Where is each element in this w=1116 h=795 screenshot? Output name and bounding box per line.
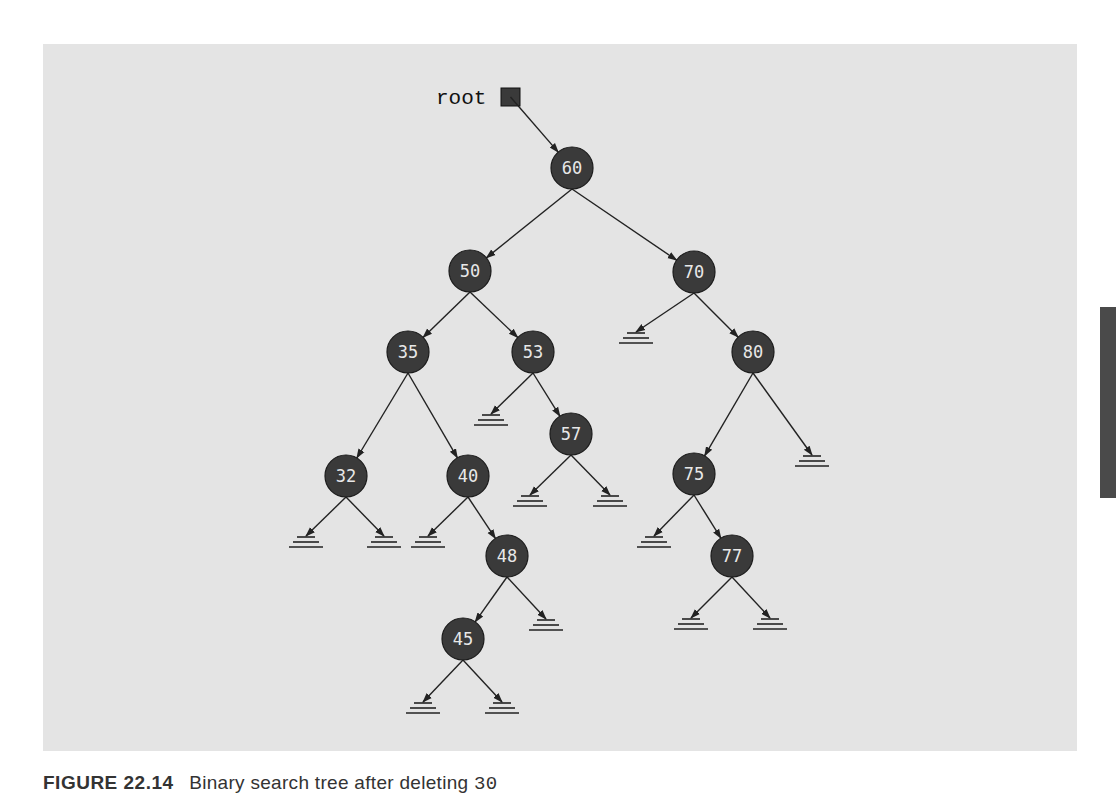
null-symbol-icon	[474, 415, 508, 425]
tree-node-40: 40	[447, 455, 489, 497]
figure-caption: FIGURE 22.14 Binary search tree after de…	[43, 772, 497, 795]
edge-60-70	[572, 189, 677, 260]
null-edge-48-right	[507, 577, 546, 619]
edge-75-77	[694, 495, 721, 538]
null-symbol-icon	[619, 333, 653, 343]
node-label: 77	[722, 546, 742, 566]
edge-35-40	[408, 373, 457, 458]
null-edge-75-left	[654, 495, 694, 536]
caption-text: Binary search tree after deleting	[189, 772, 468, 793]
null-edge-57-left	[530, 455, 571, 495]
null-edge-57-right	[571, 455, 610, 495]
null-symbol-icon	[367, 537, 401, 547]
null-edge-45-left	[423, 660, 463, 702]
null-symbol-icon	[289, 537, 323, 547]
null-symbol-icon	[529, 620, 563, 630]
edge-40-48	[468, 497, 495, 538]
node-label: 32	[336, 466, 356, 486]
tree-node-53: 53	[512, 331, 554, 373]
node-label: 75	[684, 464, 704, 484]
caption-value: 30	[474, 773, 497, 795]
edge-70-80	[694, 293, 738, 337]
edge-80-75	[705, 373, 753, 456]
null-edge-70-left	[636, 293, 694, 332]
node-label: 48	[497, 546, 517, 566]
null-edge-40-left	[428, 497, 468, 536]
node-label: 50	[460, 261, 480, 281]
node-label: 57	[561, 424, 581, 444]
tree-node-45: 45	[442, 618, 484, 660]
tree-node-77: 77	[711, 535, 753, 577]
tree-node-70: 70	[673, 251, 715, 293]
node-label: 80	[743, 342, 763, 362]
null-symbol-icon	[411, 537, 445, 547]
null-symbol-icon	[674, 619, 708, 629]
null-edge-32-right	[346, 497, 384, 536]
null-symbol-icon	[513, 496, 547, 506]
edge-35-32	[357, 373, 408, 458]
nodes-layer: 60507035538057324075487745	[325, 147, 774, 660]
edge-48-45	[475, 577, 507, 622]
null-symbol-icon	[637, 537, 671, 547]
node-label: 40	[458, 466, 478, 486]
tree-node-48: 48	[486, 535, 528, 577]
null-edge-77-left	[691, 577, 732, 618]
tree-node-32: 32	[325, 455, 367, 497]
null-symbol-icon	[406, 703, 440, 713]
edge-50-53	[470, 292, 518, 338]
tree-node-75: 75	[673, 453, 715, 495]
node-label: 45	[453, 629, 473, 649]
null-symbol-icon	[485, 703, 519, 713]
tree-node-35: 35	[387, 331, 429, 373]
edge-50-35	[423, 292, 470, 337]
null-edge-80-right	[753, 373, 812, 455]
null-edge-53-left	[491, 373, 533, 414]
node-label: 35	[398, 342, 418, 362]
node-label: 60	[562, 158, 582, 178]
null-edge-45-right	[463, 660, 502, 702]
edge-53-57	[533, 373, 560, 416]
figure-number: FIGURE 22.14	[43, 772, 174, 793]
node-label: 53	[523, 342, 543, 362]
tree-node-80: 80	[732, 331, 774, 373]
tree-node-50: 50	[449, 250, 491, 292]
null-symbol-icon	[753, 619, 787, 629]
tree-node-57: 57	[550, 413, 592, 455]
edge-60-50	[486, 189, 572, 258]
root-pointer: root	[436, 87, 520, 110]
null-symbol-icon	[795, 456, 829, 466]
root-label: root	[436, 87, 486, 110]
null-edge-77-right	[732, 577, 770, 618]
null-symbol-icon	[593, 496, 627, 506]
root-arrow	[511, 97, 559, 152]
null-edge-32-left	[306, 497, 346, 536]
node-label: 70	[684, 262, 704, 282]
tree-node-60: 60	[551, 147, 593, 189]
